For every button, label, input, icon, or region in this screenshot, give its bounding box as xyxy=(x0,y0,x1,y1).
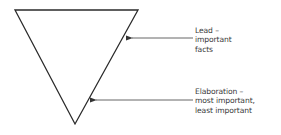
lead-annotation-line: facts xyxy=(195,45,232,54)
elaboration-annotation-line: least important xyxy=(195,106,255,115)
lead-annotation-line: important xyxy=(195,35,232,44)
elaboration-annotation-line: most important, xyxy=(195,96,255,105)
elaboration-annotation: Elaboration – most important, least impo… xyxy=(195,87,255,115)
inverted-triangle xyxy=(15,10,138,124)
lead-annotation-line: Lead – xyxy=(195,26,232,35)
lead-annotation: Lead – important facts xyxy=(195,26,232,54)
elaboration-annotation-line: Elaboration – xyxy=(195,87,255,96)
